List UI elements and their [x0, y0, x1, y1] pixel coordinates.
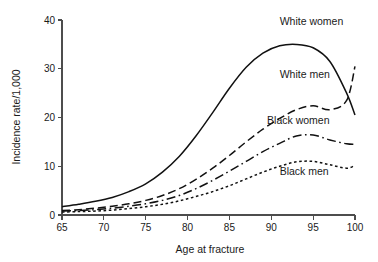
x-axis-title: Age at fracture [176, 243, 245, 255]
incidence-rate-chart: 01020304065707580859095100 White womenWh… [0, 0, 378, 262]
y-tick-label-30: 30 [44, 63, 56, 74]
y-tick-label-0: 0 [49, 210, 55, 221]
series-label-black-women: Black women [267, 114, 330, 126]
y-tick-label-10: 10 [44, 161, 56, 172]
x-tick-label-85: 85 [224, 222, 236, 233]
x-tick-label-75: 75 [140, 222, 152, 233]
y-tick-label-20: 20 [44, 112, 56, 123]
x-tick-label-95: 95 [308, 222, 320, 233]
x-tick-label-65: 65 [56, 222, 68, 233]
series-label-white-women: White women [280, 15, 344, 27]
chart-series-labels: White womenWhite menBlack womenBlack men [267, 15, 343, 177]
x-tick-label-100: 100 [347, 222, 364, 233]
x-tick-label-90: 90 [266, 222, 278, 233]
x-tick-label-70: 70 [98, 222, 110, 233]
chart-svg: 01020304065707580859095100 White womenWh… [0, 0, 378, 262]
x-tick-label-80: 80 [182, 222, 194, 233]
series-label-white-men: White men [280, 68, 330, 80]
series-line-white-men [62, 66, 355, 210]
series-label-black-men: Black men [280, 165, 329, 177]
y-axis-title: Incidence rate/1,000 [10, 69, 22, 164]
y-tick-label-40: 40 [44, 15, 56, 26]
